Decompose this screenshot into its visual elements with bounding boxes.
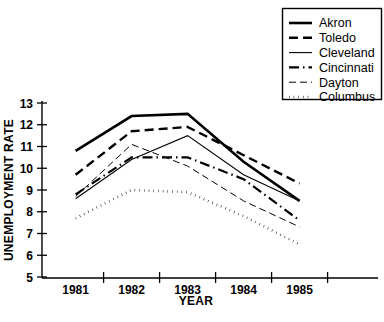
x-axis-title: YEAR	[179, 294, 214, 308]
legend-label-columbus: Columbus	[319, 90, 375, 104]
chart-legend: AkronToledoClevelandCincinnatiDaytonColu…	[283, 9, 382, 105]
y-tick-label: 12	[20, 118, 34, 132]
y-axis: 5678910111213 UNEMPLOYMENT RATE	[2, 97, 47, 285]
y-axis-title: UNEMPLOYMENT RATE	[2, 119, 16, 261]
y-tick-label: 10	[20, 162, 34, 176]
legend-label-cleveland: Cleveland	[319, 46, 375, 60]
y-tick-label: 13	[20, 97, 34, 111]
y-tick-label: 6	[26, 249, 33, 263]
series-line-cleveland	[76, 136, 300, 201]
chart-container: 5678910111213 UNEMPLOYMENT RATE 19811982…	[0, 0, 384, 322]
legend-label-toledo: Toledo	[319, 31, 356, 45]
y-tick-group: 5678910111213	[20, 97, 47, 285]
unemployment-line-chart: 5678910111213 UNEMPLOYMENT RATE 19811982…	[0, 0, 384, 322]
y-tick-label: 11	[20, 140, 33, 154]
legend-label-dayton: Dayton	[319, 76, 359, 90]
x-tick-label: 1982	[118, 283, 145, 297]
legend-label-cincinnati: Cincinnati	[319, 61, 374, 75]
y-tick-label: 7	[26, 227, 33, 241]
x-tick-label: 1985	[286, 283, 313, 297]
x-tick-label: 1981	[62, 283, 89, 297]
y-tick-label: 8	[26, 205, 33, 219]
y-tick-label: 5	[26, 271, 33, 285]
legend-label-akron: Akron	[319, 16, 352, 30]
series-group	[76, 114, 300, 245]
x-tick-label: 1984	[230, 283, 257, 297]
x-axis: 19811982198319841985 YEAR	[42, 272, 378, 308]
y-tick-label: 9	[26, 184, 33, 198]
series-line-columbus	[76, 190, 300, 244]
